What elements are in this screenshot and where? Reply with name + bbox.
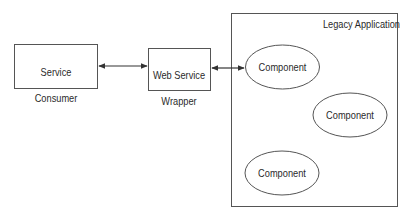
component-label-3: Component	[249, 167, 314, 180]
component-label-2: Component	[317, 109, 382, 122]
component-label-1: Component	[250, 61, 314, 74]
web-service-wrapper-label: Web Service Wrapper	[150, 56, 208, 121]
legacy-application-label: Legacy Application	[312, 18, 400, 31]
service-consumer-label: Service Consumer	[19, 53, 93, 118]
service-consumer-line1: Service	[19, 66, 93, 79]
service-consumer-line2: Consumer	[19, 92, 93, 105]
web-service-wrapper-line1: Web Service	[150, 69, 208, 82]
web-service-wrapper-line2: Wrapper	[150, 95, 208, 108]
